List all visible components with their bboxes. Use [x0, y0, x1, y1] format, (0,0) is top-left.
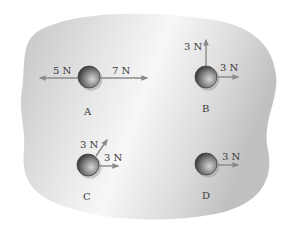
force-label-5n: 5 N: [53, 65, 72, 76]
force-label-7n: 7 N: [112, 65, 131, 76]
ball-b: [195, 66, 217, 88]
force-label-3n-up: 3 N: [184, 41, 203, 52]
force-label-3n-right: 3 N: [220, 62, 239, 73]
force-label-3n-right: 3 N: [104, 152, 123, 163]
ball-a: [78, 66, 100, 88]
force-label-3n-right: 3 N: [222, 151, 241, 162]
caption-b: B: [202, 103, 209, 114]
free-body-diagram: 5 N 7 N A 3 N 3 N B 3 N 3 N C 3 N D: [0, 0, 285, 233]
ball-d: [195, 153, 217, 175]
caption-d: D: [202, 190, 210, 201]
force-label-3n-diagonal: 3 N: [80, 139, 99, 150]
caption-a: A: [83, 106, 92, 117]
ball-c: [77, 154, 99, 176]
caption-c: C: [83, 191, 91, 202]
background-surface: [21, 14, 276, 220]
